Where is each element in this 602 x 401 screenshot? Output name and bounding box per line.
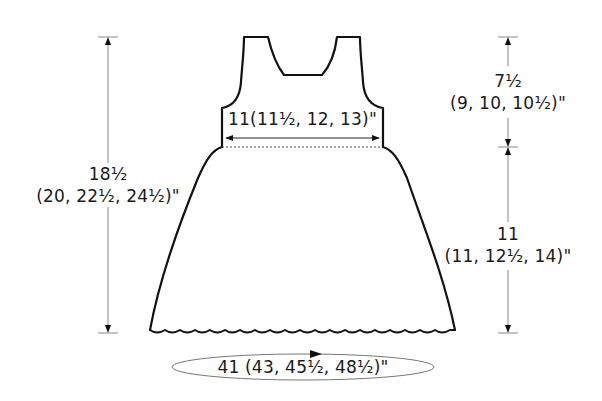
skirt-length-line2: (11, 12½, 14)"	[418, 245, 598, 267]
bodice-length-line2: (9, 10, 10½)"	[418, 92, 598, 114]
bodice-length-label: 7½ (9, 10, 10½)"	[418, 70, 598, 114]
total-length-label: 18½ (20, 22½, 24½)"	[8, 163, 208, 207]
hem-circumference-label: 41 (43, 45½, 48½)"	[172, 356, 434, 378]
total-length-line1: 18½	[8, 163, 208, 185]
scalloped-hem	[150, 330, 455, 333]
skirt-length-label: 11 (11, 12½, 14)"	[418, 223, 598, 267]
bodice-outline	[222, 37, 383, 147]
bodice-length-line1: 7½	[418, 70, 598, 92]
bodice-width-label: 11(11½, 12, 13)"	[222, 108, 383, 130]
total-length-line2: (20, 22½, 24½)"	[8, 185, 208, 207]
skirt-length-line1: 11	[418, 223, 598, 245]
